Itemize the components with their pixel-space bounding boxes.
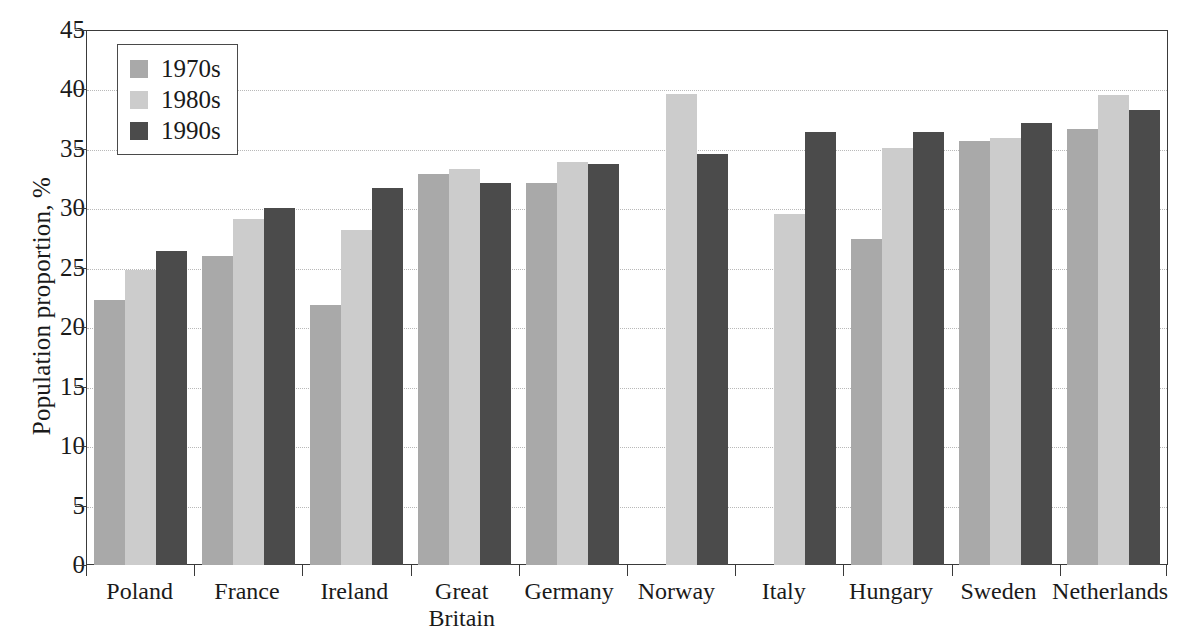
x-axis-label-line: Ireland — [301, 578, 408, 605]
legend-swatch-icon — [130, 60, 148, 78]
x-axis-tick — [952, 565, 953, 576]
x-axis-tick-label-italy: Italy — [730, 578, 837, 632]
gridline — [87, 209, 1167, 210]
y-axis-tick — [75, 327, 86, 328]
legend-label: 1970s — [161, 56, 221, 81]
x-axis-label-line: Italy — [730, 578, 837, 605]
gridline — [87, 90, 1167, 91]
x-axis-tick-labels: PolandFranceIrelandGreatBritainGermanyNo… — [86, 578, 1168, 632]
plot-area — [86, 30, 1168, 565]
bar-chart: Population proportion, % 454035302520151… — [0, 0, 1177, 639]
y-axis-tick — [75, 446, 86, 447]
y-axis-tick — [75, 208, 86, 209]
gridline — [87, 328, 1167, 329]
gridline — [87, 447, 1167, 448]
x-axis-label-line: Norway — [623, 578, 730, 605]
x-axis-label-line: Netherlands — [1052, 578, 1168, 605]
x-axis-tick-label-norway: Norway — [623, 578, 730, 632]
x-axis-tick-label-france: France — [193, 578, 300, 632]
x-axis-tick-label-germany: Germany — [515, 578, 622, 632]
legend-label: 1990s — [161, 118, 221, 143]
x-axis-tick — [1166, 565, 1167, 576]
y-axis-tick — [75, 268, 86, 269]
x-axis-label-line: Britain — [408, 605, 515, 632]
x-axis-label-line: Poland — [86, 578, 193, 605]
x-axis-tick-label-sweden: Sweden — [945, 578, 1052, 632]
y-axis-tick — [75, 506, 86, 507]
x-axis-label-line: Germany — [515, 578, 622, 605]
gridline — [87, 150, 1167, 151]
x-axis-label-line: Sweden — [945, 578, 1052, 605]
legend: 1970s1980s1990s — [117, 44, 238, 155]
legend-swatch-icon — [130, 122, 148, 140]
y-axis-tick — [75, 387, 86, 388]
x-axis-label-line: France — [193, 578, 300, 605]
x-axis-tick — [519, 565, 520, 576]
x-axis-tick — [843, 565, 844, 576]
x-axis-tick-label-netherlands: Netherlands — [1052, 578, 1168, 632]
x-axis-tick-label-great-britain: GreatBritain — [408, 578, 515, 632]
gridline — [87, 388, 1167, 389]
x-axis-tick — [302, 565, 303, 576]
y-axis-tick — [75, 149, 86, 150]
x-axis-tick — [194, 565, 195, 576]
legend-label: 1980s — [161, 87, 221, 112]
x-axis-tick — [411, 565, 412, 576]
x-axis-tick — [627, 565, 628, 576]
legend-swatch-icon — [130, 91, 148, 109]
y-axis-tick — [75, 565, 86, 566]
x-axis-ticks — [86, 565, 1168, 577]
legend-item-1990s: 1990s — [130, 115, 221, 146]
gridline — [87, 507, 1167, 508]
x-axis-tick — [86, 565, 87, 576]
y-axis-tick — [75, 89, 86, 90]
x-axis-label-line: Hungary — [837, 578, 944, 605]
x-axis-tick-label-ireland: Ireland — [301, 578, 408, 632]
y-axis-tick — [75, 30, 86, 31]
x-axis-tick-label-hungary: Hungary — [837, 578, 944, 632]
x-axis-label-line: Great — [408, 578, 515, 605]
gridline — [87, 269, 1167, 270]
x-axis-tick-label-poland: Poland — [86, 578, 193, 632]
x-axis-tick — [735, 565, 736, 576]
x-axis-tick — [1060, 565, 1061, 576]
legend-item-1970s: 1970s — [130, 53, 221, 84]
legend-item-1980s: 1980s — [130, 84, 221, 115]
